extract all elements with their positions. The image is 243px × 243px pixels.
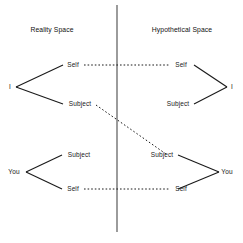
hypothetical-lower-self-label: Self — [175, 186, 187, 193]
hypothetical-space-title: Hypothetical Space — [152, 27, 212, 34]
reality-upper-apex-label: I — [9, 84, 11, 91]
subject-to-subject-diagonal-connector — [96, 105, 166, 154]
hypothetical-lower-branch-top — [178, 155, 219, 172]
diagram-lines — [0, 0, 243, 243]
reality-upper-branch-bottom — [16, 87, 63, 104]
reality-upper-self-label: Self — [67, 62, 79, 69]
reality-upper-subject-label: Subject — [69, 101, 91, 108]
reality-upper-branch-top — [16, 65, 63, 87]
hypothetical-lower-subject-label: Subject — [151, 152, 173, 159]
reality-lower-self-label: Self — [67, 186, 79, 193]
hypothetical-upper-self-label: Self — [175, 62, 187, 69]
hypothetical-upper-branch-bottom — [194, 87, 227, 104]
hypothetical-lower-apex-label: You — [221, 169, 232, 176]
reality-lower-branch-top — [26, 155, 62, 172]
reality-lower-apex-label: You — [8, 169, 19, 176]
hypothetical-upper-subject-label: Subject — [167, 101, 189, 108]
reality-space-title: Reality Space — [30, 27, 73, 34]
reality-lower-subject-label: Subject — [68, 152, 90, 159]
reality-lower-branch-bottom — [26, 172, 62, 189]
diagram-canvas: Reality Space Hypothetical Space I Self … — [0, 0, 243, 243]
hypothetical-upper-branch-top — [194, 65, 227, 87]
hypothetical-upper-apex-label: I — [231, 84, 233, 91]
